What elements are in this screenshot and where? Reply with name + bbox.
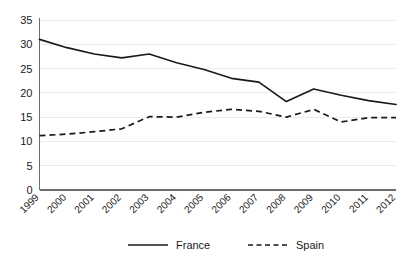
y-axis-tick-label: 20 xyxy=(20,87,32,99)
chart-canvas: 05101520253035 1999200020012002200320042… xyxy=(0,0,412,263)
y-axis-tick-label: 15 xyxy=(20,111,32,123)
y-axis-tick-label: 25 xyxy=(20,63,32,75)
y-axis-tick-label: 5 xyxy=(26,160,32,172)
y-axis-tick-label: 30 xyxy=(20,38,32,50)
y-axis-tick-label: 10 xyxy=(20,135,32,147)
legend-label-france: France xyxy=(176,239,210,251)
legend-label-spain: Spain xyxy=(296,239,324,251)
line-chart: 05101520253035 1999200020012002200320042… xyxy=(0,0,412,263)
chart-background xyxy=(0,0,412,263)
y-axis-tick-label: 35 xyxy=(20,14,32,26)
